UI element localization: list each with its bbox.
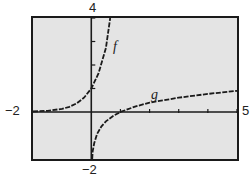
y-max-label: 4 bbox=[89, 1, 96, 14]
curve-label-g: g bbox=[151, 88, 158, 102]
x-min-label: −2 bbox=[5, 104, 20, 117]
y-min-label: −2 bbox=[82, 163, 97, 176]
plot-frame bbox=[32, 17, 238, 160]
curve-label-f: f bbox=[113, 40, 117, 54]
x-max-label: 5 bbox=[242, 104, 249, 117]
graph-plot bbox=[0, 0, 252, 178]
